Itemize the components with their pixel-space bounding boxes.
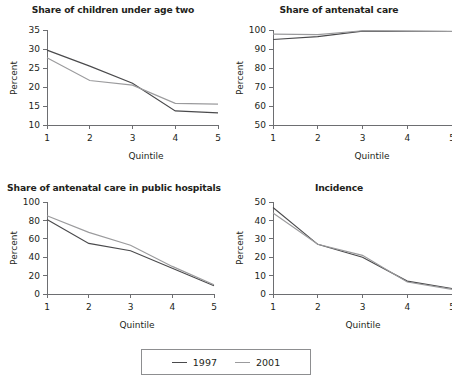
chart-legend: 1997 2001: [141, 349, 311, 375]
series-line-1997: [273, 31, 452, 39]
chart-plot-area: 506070809010012345QuintilePercent: [226, 0, 452, 178]
y-tick-label: 30: [29, 44, 41, 54]
y-tick-label: 60: [29, 234, 41, 244]
y-tick-label: 15: [29, 101, 40, 111]
x-tick-label: 4: [404, 133, 410, 143]
x-axis-title: Quintile: [354, 151, 390, 161]
line-swatch-2001-icon: [235, 362, 250, 363]
legend-label: 2001: [256, 357, 280, 368]
series-line-2001: [47, 58, 218, 104]
chart-panel-share-of-antenatal-care: Share of antenatal care 5060708090100123…: [226, 0, 452, 178]
y-tick-label: 40: [255, 216, 267, 226]
legend-entry-2001: 2001: [235, 357, 280, 368]
x-tick-label: 4: [169, 302, 175, 312]
y-tick-label: 10: [29, 120, 41, 130]
x-tick-label: 4: [172, 133, 178, 143]
x-tick-label: 1: [44, 302, 50, 312]
y-tick-label: 20: [29, 82, 41, 92]
chart-panel-incidence: Incidence 0102030405012345QuintilePercen…: [226, 178, 452, 340]
y-tick-label: 10: [255, 271, 267, 281]
y-tick-label: 80: [29, 216, 41, 226]
chart-axes: [273, 30, 452, 125]
y-axis-title: Percent: [235, 231, 245, 265]
y-axis-title: Percent: [9, 231, 19, 265]
chart-plot-area: 0102030405012345QuintilePercent: [226, 178, 452, 340]
y-tick-label: 0: [260, 289, 266, 299]
y-tick-label: 80: [255, 63, 267, 73]
x-axis-title: Quintile: [119, 320, 155, 330]
line-swatch-1997-icon: [172, 362, 187, 363]
series-line-1997: [47, 219, 214, 285]
chart-plot-area: 10152025303512345QuintilePercent: [0, 0, 226, 178]
y-tick-label: 50: [255, 197, 267, 207]
y-axis-title: Percent: [235, 61, 245, 95]
series-line-1997: [273, 208, 452, 289]
x-tick-label: 2: [315, 133, 321, 143]
x-tick-label: 3: [130, 133, 136, 143]
x-tick-label: 3: [360, 302, 366, 312]
y-tick-label: 0: [34, 289, 40, 299]
x-tick-label: 4: [404, 302, 410, 312]
series-line-2001: [273, 31, 452, 35]
x-tick-label: 5: [215, 133, 221, 143]
y-axis-title: Percent: [9, 61, 19, 95]
x-tick-label: 5: [211, 302, 217, 312]
x-tick-label: 3: [360, 133, 366, 143]
y-tick-label: 40: [29, 252, 41, 262]
y-tick-label: 20: [29, 271, 41, 281]
legend-label: 1997: [193, 357, 217, 368]
y-tick-label: 60: [255, 101, 267, 111]
x-tick-label: 2: [87, 133, 93, 143]
y-tick-label: 100: [249, 25, 266, 35]
chart-axes: [273, 202, 452, 294]
charts-grid: Share of children under age two 10152025…: [0, 0, 452, 340]
chart-panel-share-of-children-under-age-two: Share of children under age two 10152025…: [0, 0, 226, 178]
chart-axes: [47, 202, 214, 294]
y-tick-label: 25: [29, 63, 40, 73]
y-tick-label: 90: [255, 44, 267, 54]
chart-axes: [47, 30, 218, 125]
x-tick-label: 2: [86, 302, 92, 312]
y-tick-label: 35: [29, 25, 40, 35]
x-axis-title: Quintile: [128, 151, 164, 161]
x-tick-label: 1: [44, 133, 50, 143]
x-tick-label: 1: [270, 302, 276, 312]
legend-entry-1997: 1997: [172, 357, 217, 368]
x-axis-title: Quintile: [345, 320, 381, 330]
y-tick-label: 100: [23, 197, 40, 207]
y-tick-label: 50: [255, 120, 267, 130]
y-tick-label: 20: [255, 252, 267, 262]
x-tick-label: 1: [270, 133, 276, 143]
series-line-2001: [273, 213, 452, 289]
chart-panel-share-of-antenatal-care-in-public-hospitals: Share of antenatal care in public hospit…: [0, 178, 226, 340]
y-tick-label: 30: [255, 234, 267, 244]
figure-panel-grid: Share of children under age two 10152025…: [0, 0, 452, 384]
chart-plot-area: 02040608010012345QuintilePercent: [0, 178, 226, 340]
x-tick-label: 3: [128, 302, 134, 312]
x-tick-label: 2: [315, 302, 321, 312]
y-tick-label: 70: [255, 82, 267, 92]
